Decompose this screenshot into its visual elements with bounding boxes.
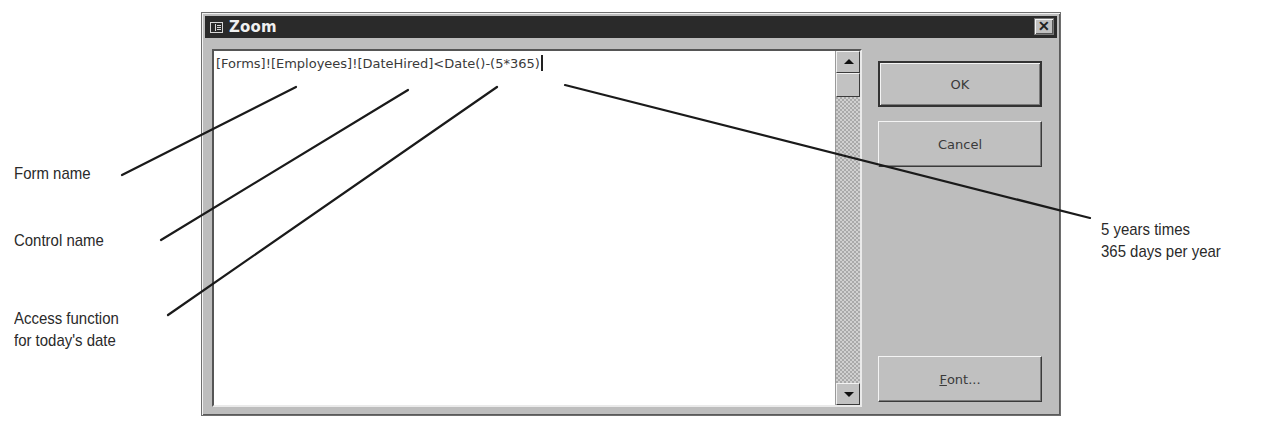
ok-button[interactable]: OK: [878, 61, 1042, 107]
control-name-callout: Control name: [14, 230, 104, 251]
zoom-dialog: Zoom ✕ [Forms]![Employees]![DateHired]<D…: [201, 12, 1061, 416]
font-accelerator: F: [939, 372, 946, 387]
arrow-down-icon: [844, 392, 854, 397]
form-name-callout: Form name: [14, 163, 90, 184]
cancel-button[interactable]: Cancel: [878, 121, 1042, 167]
scroll-thumb[interactable]: [836, 73, 860, 97]
expression-textarea[interactable]: [Forms]![Employees]![DateHired]<Date()-(…: [212, 49, 862, 407]
expression-text: [Forms]![Employees]![DateHired]<Date()-(…: [216, 55, 543, 71]
close-button[interactable]: ✕: [1034, 18, 1054, 35]
access-function-callout-line1: Access function: [14, 308, 119, 329]
years-callout-line1: 5 years times: [1101, 219, 1190, 240]
expression-value: [Forms]![Employees]![DateHired]<Date()-(…: [216, 56, 540, 71]
access-function-callout-line2: for today's date: [14, 330, 116, 351]
scroll-down-button[interactable]: [836, 383, 860, 405]
text-caret: [541, 55, 543, 71]
scroll-up-button[interactable]: [836, 51, 860, 73]
dialog-title: Zoom: [229, 18, 277, 36]
years-callout-line2: 365 days per year: [1101, 241, 1221, 262]
font-button[interactable]: Font...: [878, 356, 1042, 402]
title-bar[interactable]: Zoom ✕: [205, 16, 1057, 38]
vertical-scrollbar[interactable]: [835, 51, 860, 405]
form-grid-icon: [210, 22, 223, 33]
font-label: ont...: [947, 372, 981, 387]
arrow-up-icon: [844, 59, 854, 64]
